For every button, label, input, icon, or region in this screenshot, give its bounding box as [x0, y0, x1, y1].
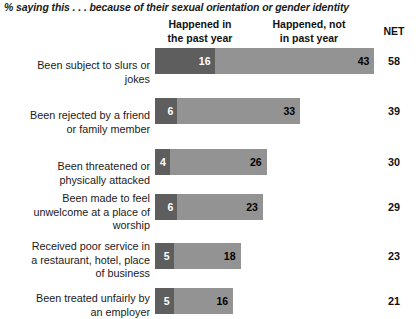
row-label-line: Been treated unfairly by [36, 292, 150, 304]
row-label-line: worship [113, 219, 150, 231]
row-label: Been treated unfairly byan employer [2, 292, 150, 319]
bar-segment-happened-not-past-year: 16 [174, 288, 234, 314]
row-label-line: an employer [91, 306, 150, 318]
bar-value-past-year: 5 [164, 296, 170, 307]
bar-value-not-past-year: 18 [224, 251, 236, 262]
stacked-bar: 1643 [155, 48, 374, 74]
stacked-bar: 633 [155, 98, 300, 124]
net-value: 29 [372, 201, 416, 213]
bar-segment-happened-past-year: 4 [155, 149, 170, 175]
row-label-line: unwelcome at a place of [34, 206, 150, 218]
bar-segment-happened-not-past-year: 43 [215, 48, 375, 74]
row-label: Been threatened orphysically attacked [2, 160, 150, 187]
row-label: Received poor service ina restaurant, ho… [2, 240, 150, 281]
row-label: Been subject to slurs orjokes [2, 59, 150, 86]
row-label-line: jokes [125, 73, 150, 85]
net-value: 58 [372, 55, 416, 67]
bar-segment-happened-not-past-year: 23 [177, 194, 263, 220]
bar-segment-happened-past-year: 5 [155, 288, 174, 314]
bar-segment-happened-not-past-year: 33 [177, 98, 300, 124]
net-value: 30 [372, 156, 416, 168]
bar-value-not-past-year: 43 [358, 56, 370, 67]
stacked-bar: 426 [155, 149, 267, 175]
row-label-line: Received poor service in [32, 240, 150, 252]
bar-value-not-past-year: 26 [250, 157, 262, 168]
bar-segment-happened-not-past-year: 26 [170, 149, 267, 175]
row-label: Been rejected by a friendor family membe… [2, 109, 150, 136]
bar-segment-happened-not-past-year: 18 [174, 243, 241, 269]
row-label-line: Been rejected by a friend [30, 109, 150, 121]
bar-segment-happened-past-year: 6 [155, 194, 177, 220]
net-value: 21 [372, 295, 416, 307]
bar-value-not-past-year: 16 [216, 296, 228, 307]
net-value: 39 [372, 105, 416, 117]
bar-segment-happened-past-year: 16 [155, 48, 215, 74]
row-label-line: of business [95, 267, 150, 279]
bar-value-past-year: 16 [199, 56, 211, 67]
row-label-line: physically attacked [59, 174, 150, 186]
chart-rows: Been subject to slurs orjokes164358Been … [0, 0, 419, 319]
stacked-bar: 518 [155, 243, 241, 269]
row-label-line: a restaurant, hotel, place [31, 254, 150, 266]
row-label-line: Been threatened or [58, 160, 150, 172]
bar-segment-happened-past-year: 5 [155, 243, 174, 269]
bar-value-not-past-year: 33 [283, 106, 295, 117]
bar-value-past-year: 6 [167, 106, 173, 117]
row-label-line: Been made to feel [62, 192, 150, 204]
stacked-bar: 516 [155, 288, 233, 314]
bar-value-past-year: 6 [167, 202, 173, 213]
bar-segment-happened-past-year: 6 [155, 98, 177, 124]
row-label: Been made to feelunwelcome at a place of… [2, 192, 150, 233]
bar-value-past-year: 5 [164, 251, 170, 262]
row-label-line: Been subject to slurs or [37, 59, 150, 71]
row-label-line: or family member [67, 123, 150, 135]
stacked-bar: 623 [155, 194, 263, 220]
bar-value-past-year: 4 [160, 157, 166, 168]
net-value: 23 [372, 250, 416, 262]
bar-value-not-past-year: 23 [246, 202, 258, 213]
